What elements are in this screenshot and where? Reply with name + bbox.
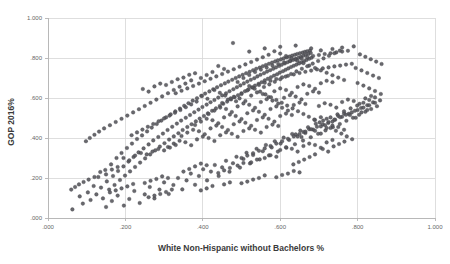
- data-point: [263, 174, 267, 178]
- data-point: [180, 89, 184, 93]
- data-point: [333, 118, 337, 122]
- data-point: [156, 147, 160, 151]
- data-point: [284, 75, 288, 79]
- data-point: [228, 170, 232, 174]
- data-point: [331, 138, 335, 142]
- data-point: [197, 82, 201, 86]
- data-point: [364, 55, 368, 59]
- data-point: [276, 62, 280, 66]
- data-point: [203, 92, 207, 96]
- data-point: [133, 189, 137, 193]
- data-point: [131, 182, 135, 186]
- data-point: [151, 139, 155, 143]
- y-tick-label: .200: [30, 175, 42, 181]
- data-point: [126, 185, 130, 189]
- data-point: [104, 205, 108, 209]
- data-point: [246, 89, 250, 93]
- data-point: [290, 113, 294, 117]
- data-point: [259, 100, 263, 104]
- data-point: [346, 49, 350, 53]
- data-point: [293, 142, 297, 146]
- data-point: [182, 76, 186, 80]
- data-point: [352, 99, 356, 103]
- data-point: [141, 87, 145, 91]
- data-point: [264, 143, 268, 147]
- data-point: [232, 122, 236, 126]
- data-point: [316, 59, 320, 63]
- data-point: [126, 114, 130, 118]
- data-point: [315, 125, 319, 129]
- data-point: [336, 125, 340, 129]
- data-point: [333, 65, 337, 69]
- data-point: [164, 83, 168, 87]
- data-point: [189, 172, 193, 176]
- data-point: [216, 64, 220, 68]
- data-point: [284, 88, 288, 92]
- data-point: [104, 173, 108, 177]
- data-point: [224, 159, 228, 163]
- data-point: [305, 92, 309, 96]
- data-point: [247, 103, 251, 107]
- data-point: [263, 147, 267, 151]
- data-point: [346, 98, 350, 102]
- data-point: [203, 79, 207, 83]
- data-point: [110, 199, 114, 203]
- data-point: [296, 59, 300, 63]
- y-tick-label: .600: [30, 95, 42, 101]
- data-point: [200, 94, 204, 98]
- data-point: [179, 119, 183, 123]
- data-point: [168, 146, 172, 150]
- data-point: [220, 101, 224, 105]
- data-point: [138, 161, 142, 165]
- data-point: [88, 136, 92, 140]
- data-point: [222, 67, 226, 71]
- data-point: [329, 103, 333, 107]
- data-point: [319, 132, 323, 136]
- data-point: [302, 112, 306, 116]
- data-point: [168, 114, 172, 118]
- data-point: [278, 87, 282, 91]
- data-point: [373, 101, 377, 105]
- data-point: [193, 123, 197, 127]
- data-point: [375, 104, 379, 108]
- data-point: [149, 179, 153, 183]
- data-point: [178, 139, 182, 143]
- data-point: [273, 80, 277, 84]
- data-point: [238, 97, 242, 101]
- data-point: [98, 170, 102, 174]
- chart-canvas: .000.200.400.600.8001.000 .000.200.400.6…: [0, 0, 450, 264]
- data-point: [246, 80, 250, 84]
- data-point: [163, 141, 167, 145]
- data-point: [371, 74, 375, 78]
- data-point: [190, 122, 194, 126]
- data-point: [114, 189, 118, 193]
- data-point: [253, 128, 257, 132]
- data-point: [213, 88, 217, 92]
- data-point: [378, 99, 382, 103]
- data-point: [354, 116, 358, 120]
- data-point: [236, 164, 240, 168]
- data-point: [166, 91, 170, 95]
- data-point: [89, 198, 93, 202]
- y-tick-label: 1.000: [27, 15, 43, 21]
- data-point: [142, 147, 146, 151]
- data-point: [327, 66, 331, 70]
- data-point: [176, 176, 180, 180]
- data-point: [147, 143, 151, 147]
- data-point: [229, 97, 233, 101]
- data-point: [344, 63, 348, 67]
- data-point: [189, 79, 193, 83]
- data-point: [186, 125, 190, 129]
- data-point: [247, 50, 251, 54]
- data-point: [133, 165, 137, 169]
- data-point: [344, 113, 348, 117]
- data-point: [230, 78, 234, 82]
- data-point: [236, 105, 240, 109]
- data-point: [311, 54, 315, 58]
- data-point: [373, 89, 377, 93]
- data-point: [69, 188, 73, 192]
- scatter-chart: .000.200.400.600.8001.000 .000.200.400.6…: [0, 0, 450, 264]
- data-point: [356, 108, 360, 112]
- data-point: [211, 118, 215, 122]
- data-point: [300, 67, 304, 71]
